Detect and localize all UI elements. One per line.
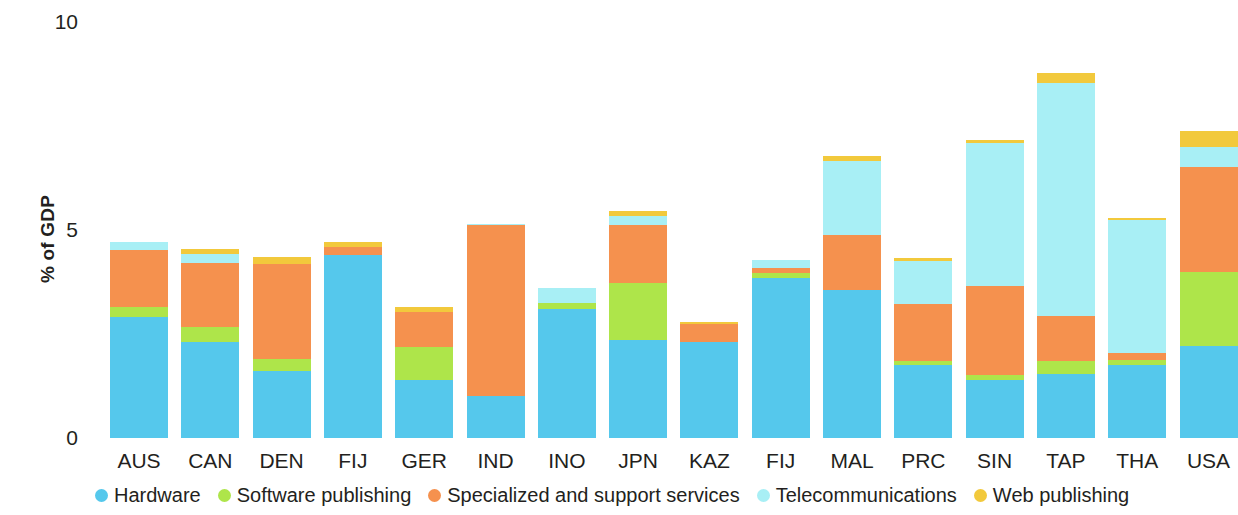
legend-item-hardware[interactable]: Hardware	[95, 484, 201, 506]
legend-swatch-icon	[218, 489, 231, 502]
bar-segment-software-publishing	[609, 283, 667, 340]
legend-label: Telecommunications	[776, 484, 957, 506]
bar-segment-telecommunications	[110, 242, 168, 250]
bar-tap-13[interactable]	[1037, 73, 1095, 438]
bar-segment-specialized-and-support-services	[823, 235, 881, 290]
bar-segment-hardware	[1180, 346, 1238, 438]
bar-segment-hardware	[752, 278, 810, 438]
bar-segment-specialized-and-support-services	[680, 324, 738, 342]
bar-sin-12[interactable]	[966, 140, 1024, 438]
bar-segment-specialized-and-support-services	[110, 250, 168, 307]
bar-segment-telecommunications	[894, 261, 952, 304]
bar-segment-hardware	[253, 371, 311, 438]
x-axis-tick-label: DEN	[253, 449, 311, 473]
x-axis-tick-label: FIJ	[752, 449, 810, 473]
bar-segment-web-publishing	[1180, 131, 1238, 147]
bar-mal-10[interactable]	[823, 156, 881, 438]
bar-segment-telecommunications	[181, 254, 239, 263]
x-axis-tick-label: AUS	[110, 449, 168, 473]
bar-aus-0[interactable]	[110, 242, 168, 438]
bar-fij-9[interactable]	[752, 260, 810, 438]
x-axis-tick-label: GER	[395, 449, 453, 473]
bar-segment-telecommunications	[609, 216, 667, 225]
bar-segment-telecommunications	[1037, 83, 1095, 316]
bar-segment-specialized-and-support-services	[253, 264, 311, 359]
x-axis-tick-label: KAZ	[680, 449, 738, 473]
x-axis-tick-label: JPN	[609, 449, 667, 473]
bar-segment-software-publishing	[1037, 361, 1095, 374]
legend-item-software-publishing[interactable]: Software publishing	[218, 484, 412, 506]
x-axis-tick-label: CAN	[181, 449, 239, 473]
bar-segment-specialized-and-support-services	[395, 312, 453, 346]
x-axis-tick-label: INO	[538, 449, 596, 473]
legend-swatch-icon	[974, 489, 987, 502]
bar-kaz-8[interactable]	[680, 322, 738, 438]
bar-segment-software-publishing	[181, 327, 239, 342]
bar-segment-hardware	[538, 309, 596, 438]
bar-fij-3[interactable]	[324, 242, 382, 438]
bar-ind-5[interactable]	[467, 224, 525, 438]
bar-jpn-7[interactable]	[609, 211, 667, 438]
legend-item-telecommunications[interactable]: Telecommunications	[757, 484, 957, 506]
bar-segment-software-publishing	[395, 347, 453, 380]
bar-segment-telecommunications	[823, 161, 881, 236]
x-axis-tick-label: FIJ	[324, 449, 382, 473]
legend-swatch-icon	[428, 489, 441, 502]
bar-segment-specialized-and-support-services	[894, 304, 952, 361]
legend-item-web-publishing[interactable]: Web publishing	[974, 484, 1129, 506]
x-axis-tick-label: IND	[467, 449, 525, 473]
legend-label: Specialized and support services	[447, 484, 739, 506]
bar-segment-telecommunications	[538, 288, 596, 303]
bar-segment-hardware	[823, 290, 881, 438]
bar-segment-specialized-and-support-services	[1037, 316, 1095, 361]
x-axis-tick-label: THA	[1108, 449, 1166, 473]
bar-segment-hardware	[609, 340, 667, 438]
x-axis-tick-label: SIN	[966, 449, 1024, 473]
legend-swatch-icon	[95, 489, 108, 502]
bar-segment-specialized-and-support-services	[324, 247, 382, 255]
bar-can-1[interactable]	[181, 249, 239, 438]
legend-swatch-icon	[757, 489, 770, 502]
bar-segment-hardware	[894, 365, 952, 438]
bar-segment-hardware	[966, 380, 1024, 438]
bar-segment-telecommunications	[966, 143, 1024, 286]
bar-segment-hardware	[395, 380, 453, 438]
bar-segment-software-publishing	[253, 359, 311, 371]
bar-prc-11[interactable]	[894, 258, 952, 438]
bar-segment-telecommunications	[1108, 220, 1166, 353]
legend-label: Software publishing	[237, 484, 412, 506]
bar-ger-4[interactable]	[395, 307, 453, 438]
bar-segment-hardware	[1108, 365, 1166, 438]
x-axis-tick-label: PRC	[894, 449, 952, 473]
bar-den-2[interactable]	[253, 257, 311, 438]
bar-ino-6[interactable]	[538, 288, 596, 438]
bar-segment-telecommunications	[752, 260, 810, 268]
bar-segment-web-publishing	[253, 257, 311, 264]
x-axis-tick-label: USA	[1180, 449, 1238, 473]
legend-item-specialized-and-support-services[interactable]: Specialized and support services	[428, 484, 739, 506]
bar-segment-specialized-and-support-services	[609, 225, 667, 283]
bar-segment-specialized-and-support-services	[966, 286, 1024, 375]
bar-segment-software-publishing	[1180, 272, 1238, 347]
bar-segment-specialized-and-support-services	[1180, 167, 1238, 272]
bar-segment-specialized-and-support-services	[1108, 353, 1166, 360]
x-axis-tick-label: TAP	[1037, 449, 1095, 473]
legend-label: Hardware	[114, 484, 201, 506]
bar-segment-hardware	[324, 255, 382, 438]
bar-segment-software-publishing	[110, 307, 168, 318]
bar-segment-hardware	[467, 396, 525, 438]
bar-segment-hardware	[1037, 374, 1095, 438]
bar-segment-hardware	[680, 342, 738, 438]
bar-segment-telecommunications	[1180, 147, 1238, 167]
bar-tha-14[interactable]	[1108, 218, 1166, 438]
legend-label: Web publishing	[993, 484, 1129, 506]
bar-segment-specialized-and-support-services	[181, 263, 239, 327]
bar-segment-hardware	[181, 342, 239, 438]
bar-usa-15[interactable]	[1180, 131, 1238, 438]
bar-segment-web-publishing	[1037, 73, 1095, 83]
bar-segment-hardware	[110, 317, 168, 438]
bar-segment-specialized-and-support-services	[467, 225, 525, 396]
chart-legend: HardwareSoftware publishingSpecialized a…	[95, 484, 1129, 506]
